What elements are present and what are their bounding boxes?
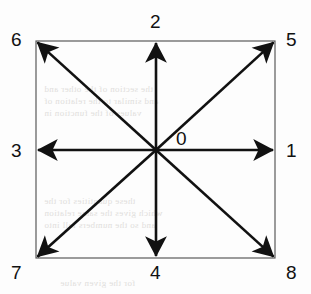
- direction-label-2: 2: [150, 12, 161, 31]
- arrow-north-east: [156, 42, 274, 150]
- direction-label-3: 3: [11, 141, 22, 160]
- arrow-group: [37, 42, 273, 256]
- direction-label-4: 4: [150, 263, 161, 282]
- diagram-canvas: [0, 0, 311, 294]
- direction-label-8: 8: [286, 263, 297, 282]
- arrow-south-west: [37, 150, 156, 257]
- direction-label-1: 1: [286, 141, 297, 160]
- direction-label-6: 6: [11, 30, 22, 49]
- origin-label: 0: [176, 129, 187, 148]
- direction-diagram-figure: the section of the other and and similar…: [0, 0, 311, 294]
- arrow-north-west: [37, 42, 156, 150]
- direction-label-7: 7: [11, 263, 22, 282]
- arrow-south-east: [156, 150, 274, 257]
- direction-label-5: 5: [286, 30, 297, 49]
